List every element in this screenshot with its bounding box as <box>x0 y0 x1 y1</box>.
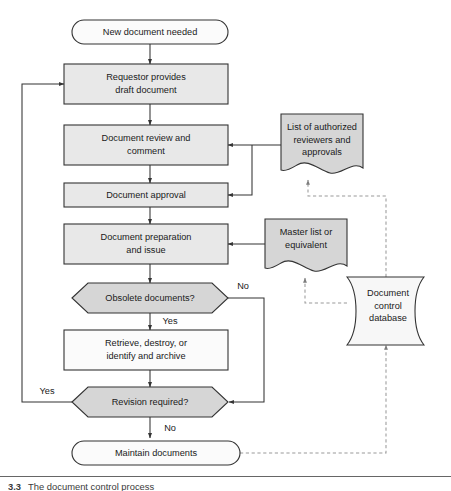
edge-label-obsolete-yes: Yes <box>163 316 178 326</box>
edge-authlist-to-approval <box>228 145 252 195</box>
node-preparation-label-line1: Document preparation <box>101 232 192 242</box>
edge-database-to-masterlist-dashed <box>305 278 347 303</box>
edge-label-obsolete-no: No <box>237 281 249 291</box>
node-database-label-line2: control <box>374 301 402 311</box>
figure-caption: 3.3The document control process <box>8 481 451 491</box>
node-database-label-line3: database <box>369 313 407 323</box>
node-maintain-label: Maintain documents <box>115 448 198 458</box>
node-database-label-line1: Document <box>367 288 409 298</box>
node-retrieve-label-line2: identify and archive <box>106 351 185 361</box>
node-approval[interactable]: Document approval <box>64 183 228 207</box>
flowchart-page: New document needed Requestor provides d… <box>0 0 451 491</box>
node-preparation-label-line2: and issue <box>126 245 165 255</box>
node-review-label-line2: comment <box>127 146 165 156</box>
edge-label-revision-yes: Yes <box>40 386 55 396</box>
node-review[interactable]: Document review and comment <box>64 125 228 165</box>
edge-obsolete-no-to-revision <box>228 298 264 402</box>
node-approval-label: Document approval <box>106 190 186 200</box>
node-authlist-label-line2: reviewers and <box>293 135 350 145</box>
edge-maintain-to-database-dashed <box>240 345 386 453</box>
node-retrieve[interactable]: Retrieve, destroy, or identify and archi… <box>64 330 228 370</box>
node-start[interactable]: New document needed <box>72 20 228 44</box>
node-preparation[interactable]: Document preparation and issue <box>64 224 228 264</box>
node-revision-label: Revision required? <box>112 397 189 407</box>
node-authlist-label-line1: List of authorized <box>287 122 357 132</box>
node-authlist[interactable]: List of authorized reviewers and approva… <box>281 114 363 173</box>
node-start-label: New document needed <box>103 27 198 37</box>
node-masterlist-label-line2: equivalent <box>285 240 327 250</box>
node-database[interactable]: Document control database <box>347 277 424 345</box>
node-obsolete-label: Obsolete documents? <box>105 293 194 303</box>
caption-divider <box>0 476 451 477</box>
node-requestor[interactable]: Requestor provides draft document <box>64 64 228 104</box>
node-requestor-label-line2: draft document <box>115 85 177 95</box>
node-obsolete[interactable]: Obsolete documents? <box>72 283 228 313</box>
edge-label-revision-no: No <box>164 423 176 433</box>
node-authlist-label-line3: approvals <box>302 147 342 157</box>
figure-number: 3.3 <box>8 481 21 491</box>
figure-caption-text: The document control process <box>28 481 154 491</box>
node-review-label-line1: Document review and <box>102 133 191 143</box>
node-revision[interactable]: Revision required? <box>72 387 228 417</box>
node-retrieve-label-line1: Retrieve, destroy, or <box>105 338 187 348</box>
document-control-flowchart: New document needed Requestor provides d… <box>0 0 451 491</box>
node-requestor-label-line1: Requestor provides <box>106 72 186 82</box>
node-masterlist[interactable]: Master list or equivalent <box>265 219 347 271</box>
node-masterlist-label-line1: Master list or <box>280 227 333 237</box>
node-maintain[interactable]: Maintain documents <box>72 441 240 465</box>
